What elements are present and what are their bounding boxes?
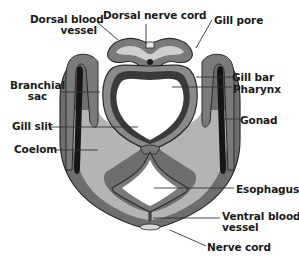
label-dorsal-nerve-cord: Dorsal nerve cord: [103, 10, 207, 20]
amphioxus-cross-section-diagram: Dorsal blood vessel Dorsal nerve cord Gi…: [0, 0, 299, 265]
label-line: vessel: [222, 222, 299, 232]
label-coelom: Coelom: [14, 144, 57, 154]
ventral-nerve-cord: [140, 224, 160, 230]
label-gill-bar: Gill bar: [232, 72, 274, 82]
label-gonad: Gonad: [240, 115, 277, 125]
label-dorsal-blood-vessel: Dorsal blood vessel: [30, 14, 97, 35]
label-branchial-sac: Branchial sac: [10, 80, 65, 101]
label-nerve-cord: Nerve cord: [207, 242, 271, 252]
label-line: vessel: [30, 25, 97, 35]
label-esophagus: Esophagus: [236, 184, 299, 194]
label-line: sac: [10, 91, 65, 101]
label-line: Dorsal blood: [30, 14, 97, 24]
label-gill-pore: Gill pore: [214, 15, 263, 25]
label-gill-slit: Gill slit: [12, 121, 53, 131]
label-ventral-blood-vessel: Ventral blood vessel: [222, 211, 299, 232]
dorsal-blood-vessel: [147, 59, 153, 65]
label-pharynx: Pharynx: [233, 84, 281, 94]
dorsal-nerve-cord: [146, 42, 154, 48]
label-line: Branchial: [10, 80, 65, 90]
label-line: Ventral blood: [222, 211, 299, 221]
